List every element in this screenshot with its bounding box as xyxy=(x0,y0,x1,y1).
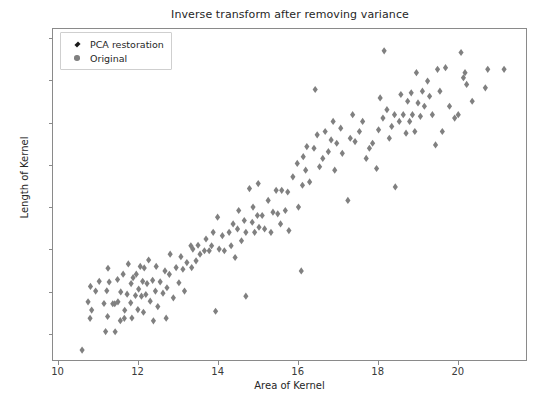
data-point xyxy=(311,145,316,152)
data-point xyxy=(164,315,169,322)
data-point xyxy=(425,78,430,85)
data-point xyxy=(235,225,240,232)
data-point xyxy=(87,315,92,322)
data-point xyxy=(315,131,320,138)
legend-label: Original xyxy=(88,53,127,64)
data-point xyxy=(384,106,389,113)
data-point xyxy=(387,135,392,142)
data-point xyxy=(255,212,260,219)
data-point xyxy=(268,229,273,236)
data-point xyxy=(107,278,112,285)
data-point xyxy=(129,314,134,321)
series-original xyxy=(80,47,507,353)
x-tick-label: 14 xyxy=(211,366,224,377)
data-point xyxy=(227,229,232,236)
data-point xyxy=(160,290,165,297)
data-point xyxy=(483,84,488,91)
data-point xyxy=(283,207,288,214)
data-point xyxy=(140,278,145,285)
data-point xyxy=(304,143,309,150)
x-tick-label: 16 xyxy=(291,366,304,377)
data-point xyxy=(338,125,343,132)
data-point xyxy=(433,141,438,148)
data-point xyxy=(80,347,85,354)
y-tick-mark xyxy=(49,334,53,335)
data-point xyxy=(243,229,248,236)
data-point xyxy=(334,140,339,147)
data-point xyxy=(231,220,236,227)
legend-marker-swatch xyxy=(74,41,80,47)
data-point xyxy=(113,328,118,335)
data-point xyxy=(374,165,379,172)
data-point xyxy=(393,183,398,190)
data-point xyxy=(313,86,318,93)
data-point xyxy=(168,251,173,258)
x-tick-mark xyxy=(218,361,219,365)
data-point xyxy=(320,155,325,162)
data-point xyxy=(290,173,295,180)
data-point xyxy=(133,292,138,299)
data-point xyxy=(222,247,227,254)
data-point xyxy=(285,188,290,195)
data-point xyxy=(88,283,93,290)
data-point xyxy=(135,306,140,313)
data-point xyxy=(262,225,267,232)
data-point xyxy=(174,264,179,271)
y-axis-label: Length of Kernel xyxy=(19,108,30,248)
data-point xyxy=(360,118,365,125)
data-point xyxy=(435,66,440,73)
data-point xyxy=(278,220,283,227)
data-point xyxy=(329,136,334,143)
data-point xyxy=(126,260,131,267)
data-point xyxy=(141,309,146,316)
data-point xyxy=(202,247,207,254)
data-point xyxy=(443,64,448,71)
data-point xyxy=(118,288,123,295)
x-tick-mark xyxy=(458,361,459,365)
data-point xyxy=(176,279,181,286)
data-point xyxy=(167,271,172,278)
data-point xyxy=(357,128,362,135)
data-point xyxy=(464,81,469,88)
data-point xyxy=(128,299,133,306)
data-point xyxy=(307,178,312,185)
data-point xyxy=(275,210,280,217)
data-point xyxy=(211,229,216,236)
data-point xyxy=(242,217,247,224)
data-point xyxy=(345,197,350,204)
data-point xyxy=(270,209,275,216)
data-point xyxy=(193,257,198,264)
data-point xyxy=(317,163,322,170)
data-point xyxy=(398,91,403,98)
data-point xyxy=(340,150,345,157)
data-point xyxy=(182,288,187,295)
scatter-points-layer xyxy=(53,29,526,360)
y-tick-mark xyxy=(49,207,53,208)
data-point xyxy=(97,278,102,285)
data-point xyxy=(348,135,353,142)
data-point xyxy=(501,66,506,73)
data-point xyxy=(250,204,255,211)
legend-entry: PCA restoration xyxy=(66,37,164,51)
data-point xyxy=(412,128,417,135)
data-point xyxy=(136,286,141,293)
data-point xyxy=(286,227,291,234)
figure-canvas: Inverse transform after removing varianc… xyxy=(0,0,548,403)
data-point xyxy=(403,130,408,137)
data-point xyxy=(378,94,383,101)
data-point xyxy=(252,229,257,236)
data-point xyxy=(376,126,381,133)
data-point xyxy=(380,114,385,121)
x-tick-label: 12 xyxy=(131,366,144,377)
x-tick-mark xyxy=(378,361,379,365)
data-point xyxy=(129,280,134,287)
data-point xyxy=(303,167,308,174)
data-point xyxy=(279,187,284,194)
data-point xyxy=(430,111,435,118)
data-point xyxy=(213,308,218,315)
data-point xyxy=(144,280,149,287)
data-point xyxy=(189,264,194,271)
x-tick-mark xyxy=(58,361,59,365)
data-point xyxy=(397,118,402,125)
data-point xyxy=(266,197,271,204)
